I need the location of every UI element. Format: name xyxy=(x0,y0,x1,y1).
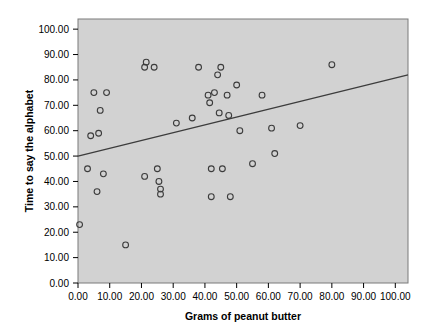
y-tick-label: 100.00 xyxy=(38,24,69,35)
scatter-chart: 0.0010.0020.0030.0040.0050.0060.0070.008… xyxy=(0,0,429,331)
y-tick-label: 20.00 xyxy=(44,227,69,238)
y-tick-label: 10.00 xyxy=(44,252,69,263)
y-tick-label: 0.00 xyxy=(50,278,70,289)
y-tick-label: 70.00 xyxy=(44,100,69,111)
y-tick-label: 90.00 xyxy=(44,49,69,60)
x-tick-label: 0.00 xyxy=(68,291,88,302)
y-tick-label: 40.00 xyxy=(44,176,69,187)
x-tick-label: 40.00 xyxy=(192,291,217,302)
x-tick-label: 90.00 xyxy=(351,291,376,302)
x-tick-label: 20.00 xyxy=(129,291,154,302)
x-axis-ticks: 0.0010.0020.0030.0040.0050.0060.0070.008… xyxy=(68,283,411,302)
x-tick-label: 80.00 xyxy=(319,291,344,302)
y-axis-title: Time to say the alphabet xyxy=(23,89,35,212)
x-tick-label: 100.00 xyxy=(380,291,411,302)
y-axis-ticks: 0.0010.0020.0030.0040.0050.0060.0070.008… xyxy=(38,24,78,289)
x-tick-label: 70.00 xyxy=(288,291,313,302)
plot-svg: 0.0010.0020.0030.0040.0050.0060.0070.008… xyxy=(0,0,429,331)
y-tick-label: 80.00 xyxy=(44,74,69,85)
x-tick-label: 30.00 xyxy=(161,291,186,302)
y-tick-label: 30.00 xyxy=(44,201,69,212)
x-tick-label: 50.00 xyxy=(224,291,249,302)
x-axis-title: Grams of peanut butter xyxy=(185,310,301,322)
x-tick-label: 10.00 xyxy=(97,291,122,302)
x-tick-label: 60.00 xyxy=(256,291,281,302)
y-tick-label: 60.00 xyxy=(44,125,69,136)
y-tick-label: 50.00 xyxy=(44,151,69,162)
